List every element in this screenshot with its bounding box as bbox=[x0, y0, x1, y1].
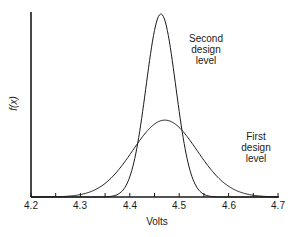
annotation-text: Second bbox=[182, 33, 230, 44]
annotation-text: design bbox=[236, 142, 276, 153]
chart-canvas bbox=[0, 0, 295, 237]
x-tick-label: 4.2 bbox=[24, 200, 38, 211]
annotation-text: level bbox=[182, 55, 230, 66]
x-tick-label: 4.7 bbox=[271, 200, 285, 211]
annotation-first-design-level: First design level bbox=[236, 131, 276, 164]
x-tick-label: 4.3 bbox=[73, 200, 87, 211]
x-axis-label: Volts bbox=[146, 216, 168, 227]
x-tick-label: 4.6 bbox=[222, 200, 236, 211]
y-axis-label: f(x) bbox=[8, 96, 19, 110]
annotation-second-design-level: Second design level bbox=[182, 33, 230, 66]
x-tick-label: 4.5 bbox=[172, 200, 186, 211]
second-design-level-curve bbox=[31, 14, 278, 197]
x-tick-label: 4.4 bbox=[123, 200, 137, 211]
annotation-text: level bbox=[236, 153, 276, 164]
axes bbox=[31, 12, 279, 197]
annotation-text: First bbox=[236, 131, 276, 142]
annotation-text: design bbox=[182, 44, 230, 55]
